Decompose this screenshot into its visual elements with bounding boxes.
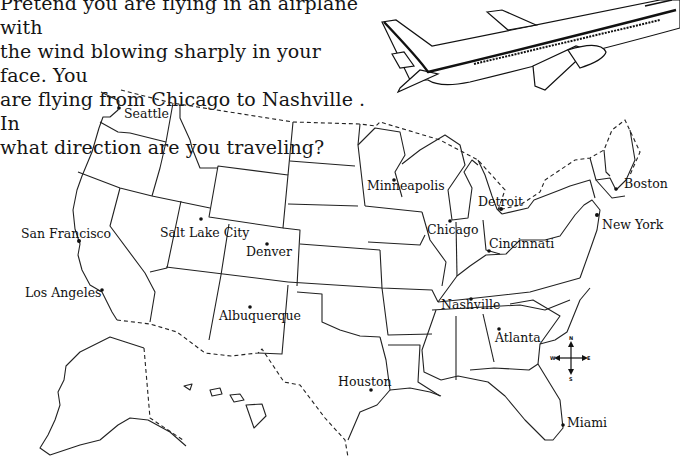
svg-text:Nashville: Nashville	[441, 297, 500, 312]
svg-text:San Francisco: San Francisco	[21, 226, 111, 241]
city-houston: Houston	[338, 374, 392, 392]
svg-text:W: W	[550, 355, 556, 361]
svg-text:N: N	[569, 335, 573, 341]
city-san-francisco: San Francisco	[21, 226, 111, 243]
city-detroit: Detroit	[478, 194, 523, 211]
svg-text:S: S	[569, 376, 573, 382]
us-map: Seattle San Francisco Salt Lake City Den…	[0, 0, 680, 457]
svg-text:Los Angeles: Los Angeles	[25, 285, 102, 300]
svg-text:Boston: Boston	[624, 176, 668, 191]
svg-text:Minneapolis: Minneapolis	[367, 178, 445, 193]
airplane-icon	[382, 0, 680, 92]
svg-text:Chicago: Chicago	[427, 222, 479, 237]
city-nashville: Nashville	[441, 297, 500, 312]
city-new-york: New York	[595, 213, 664, 232]
city-minneapolis: Minneapolis	[367, 178, 445, 193]
city-miami: Miami	[561, 415, 607, 430]
city-atlanta: Atlanta	[494, 327, 541, 345]
svg-text:Cincinnati: Cincinnati	[489, 236, 554, 251]
city-denver: Denver	[246, 242, 292, 259]
city-albuquerque: Albuquerque	[218, 305, 301, 323]
map-outline	[40, 90, 640, 457]
city-chicago: Chicago	[427, 219, 479, 237]
svg-text:Detroit: Detroit	[478, 194, 523, 209]
city-cincinnati: Cincinnati	[487, 236, 554, 253]
svg-text:Miami: Miami	[567, 415, 607, 430]
city-seattle: Seattle	[117, 106, 169, 121]
city-los-angeles: Los Angeles	[25, 285, 104, 300]
svg-text:Denver: Denver	[246, 244, 292, 259]
compass-rose-icon: N S W E	[550, 335, 591, 382]
svg-text:Albuquerque: Albuquerque	[218, 308, 301, 323]
svg-text:Salt Lake City: Salt Lake City	[160, 225, 250, 240]
svg-text:E: E	[587, 355, 591, 361]
svg-text:Seattle: Seattle	[124, 106, 169, 121]
svg-text:Atlanta: Atlanta	[494, 330, 541, 345]
svg-text:Houston: Houston	[338, 374, 392, 389]
svg-text:New York: New York	[602, 217, 664, 232]
